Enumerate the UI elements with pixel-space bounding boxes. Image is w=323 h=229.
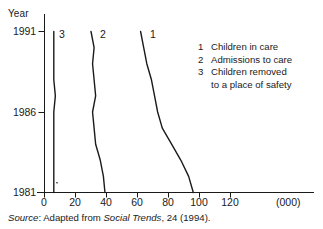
legend-key-3: 3 (198, 66, 211, 79)
source-suffix: , 24 (1994). (161, 212, 210, 223)
legend-key-1: 1 (198, 41, 211, 54)
chart-figure: Year 1991 1986 1981 0 20 40 60 80 100 12… (0, 0, 323, 229)
legend-label-3-continuation: to a place of safety (198, 79, 323, 92)
series-line-children-removed (54, 32, 56, 193)
source-mid: : Adapted from (38, 212, 103, 223)
legend-key-2: 2 (198, 54, 211, 67)
source-caption: Source: Adapted from Social Trends, 24 (… (8, 212, 211, 223)
series-line-children-in-care (141, 32, 194, 193)
scan-speck (56, 182, 58, 183)
curve-tag-3: 3 (59, 28, 65, 40)
legend-item-2: 2 Admissions to care (198, 54, 323, 67)
curve-tag-1: 1 (150, 28, 156, 40)
legend-label-3: Children removed (211, 66, 323, 79)
curve-tag-2: 2 (100, 28, 106, 40)
legend-label-2: Admissions to care (211, 54, 323, 67)
plot-area (0, 0, 323, 229)
source-publication: Social Trends (103, 212, 161, 223)
legend-label-1: Children in care (211, 41, 323, 54)
legend-item-3: 3 Children removed (198, 66, 323, 79)
series-line-admissions-to-care (91, 32, 105, 193)
source-prefix: Source (8, 212, 38, 223)
legend-item-1: 1 Children in care (198, 41, 323, 54)
legend: 1 Children in care 2 Admissions to care … (198, 41, 323, 91)
